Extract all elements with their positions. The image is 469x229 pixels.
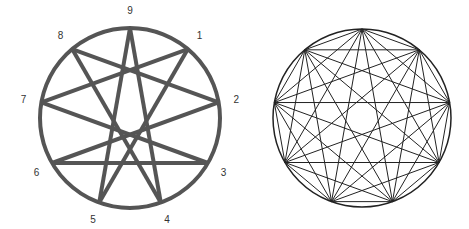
graph-edge [274, 103, 392, 202]
graph-edge [392, 163, 439, 202]
point-label: 3 [221, 167, 227, 178]
left-circle [40, 28, 220, 208]
star-line [52, 102, 219, 163]
point-label: 4 [164, 214, 170, 225]
graph-edge [285, 163, 332, 202]
point-label: 2 [234, 94, 240, 105]
enneagram-diagrams: 123456789 [0, 0, 469, 229]
point-label: 1 [197, 30, 203, 41]
point-label: 6 [34, 167, 40, 178]
point-label: 7 [21, 94, 27, 105]
point-label: 9 [127, 5, 133, 16]
point-label: 5 [90, 214, 96, 225]
right-circle [273, 29, 451, 207]
graph-edge [332, 103, 450, 202]
point-label: 8 [58, 30, 64, 41]
graph-edge [362, 29, 419, 50]
star-line [41, 102, 208, 163]
diagram-container: 123456789 [0, 0, 469, 229]
graph-edge [305, 29, 362, 50]
